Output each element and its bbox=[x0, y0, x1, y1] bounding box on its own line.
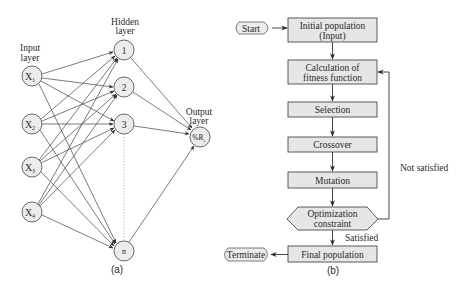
hidden-node-1: 1 bbox=[114, 40, 134, 60]
start-terminal: Start bbox=[236, 22, 268, 34]
crossover-box: Crossover bbox=[288, 137, 377, 152]
output-node: %Re bbox=[190, 127, 210, 147]
input-node-x3: X3 bbox=[22, 157, 42, 177]
final-population-box: Final population bbox=[288, 246, 377, 262]
input-node-x4: X4 bbox=[22, 202, 42, 222]
svg-text:Optimization: Optimization bbox=[307, 209, 357, 219]
svg-text:Final population: Final population bbox=[301, 250, 364, 260]
input-hidden-connections bbox=[38, 52, 118, 248]
terminate-terminal: Terminate bbox=[225, 248, 268, 261]
svg-text:n: n bbox=[122, 247, 126, 256]
panel-b-caption: (b) bbox=[327, 265, 339, 276]
svg-text:Terminate: Terminate bbox=[227, 250, 265, 260]
svg-text:Initial population: Initial population bbox=[300, 21, 366, 31]
neural-network-diagram: Input layer Hidden layer Output layer X1… bbox=[20, 17, 213, 275]
figure: Input layer Hidden layer Output layer X1… bbox=[0, 0, 472, 289]
hidden-layer-label-2: layer bbox=[116, 26, 136, 36]
input-node-x2: X2 bbox=[22, 114, 42, 134]
hidden-node-n: n bbox=[114, 241, 134, 261]
hidden-node-2: 2 bbox=[114, 77, 134, 97]
svg-text:2: 2 bbox=[122, 83, 127, 93]
genetic-algorithm-flowchart: Start Initial population (Input) Calcula… bbox=[225, 18, 449, 276]
not-satisfied-label: Not satisfied bbox=[400, 163, 449, 173]
svg-text:3: 3 bbox=[122, 120, 127, 130]
mutation-box: Mutation bbox=[288, 172, 377, 188]
selection-box: Selection bbox=[288, 102, 377, 117]
input-node-x1: X1 bbox=[22, 66, 42, 86]
svg-text:constraint: constraint bbox=[314, 219, 352, 229]
svg-text:Calculation of: Calculation of bbox=[305, 63, 360, 73]
output-layer-label-2: layer bbox=[190, 116, 210, 126]
svg-text:fitness function: fitness function bbox=[303, 73, 362, 83]
initial-population-box: Initial population (Input) bbox=[288, 18, 377, 42]
svg-text:Start: Start bbox=[242, 24, 260, 34]
panel-a-caption: (a) bbox=[111, 264, 123, 275]
svg-text:Crossover: Crossover bbox=[313, 140, 352, 150]
input-layer-label-2: layer bbox=[21, 53, 41, 63]
svg-text:Mutation: Mutation bbox=[315, 176, 350, 186]
not-satisfied-loop-arrow bbox=[378, 72, 389, 219]
input-layer-label: Input bbox=[20, 43, 40, 53]
optimization-constraint-decision: Optimization constraint bbox=[287, 207, 378, 230]
svg-text:Selection: Selection bbox=[315, 105, 351, 115]
svg-text:(Input): (Input) bbox=[319, 31, 345, 42]
svg-text:1: 1 bbox=[122, 46, 127, 56]
fitness-function-box: Calculation of fitness function bbox=[288, 60, 377, 84]
satisfied-label: Satisfied bbox=[345, 233, 378, 243]
hidden-output-connections bbox=[129, 58, 194, 242]
hidden-node-3: 3 bbox=[114, 114, 134, 134]
